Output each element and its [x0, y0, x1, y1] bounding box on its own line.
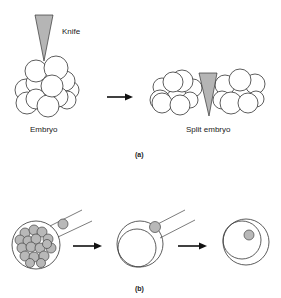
donor-embryo	[12, 221, 60, 269]
reconstructed-embryo	[223, 219, 269, 265]
split-embryo-label: Split embryo	[186, 125, 231, 134]
recipient-oocyte	[117, 210, 195, 267]
embryo-splitting-diagram: Knife Embryo	[0, 0, 281, 298]
arrow-right-icon	[73, 243, 102, 250]
split-embryo-left	[150, 70, 202, 115]
panel-b: (b)	[12, 210, 269, 293]
knife-label: Knife	[62, 27, 81, 36]
panel-b-label: (b)	[135, 285, 144, 293]
knife-split-icon	[199, 73, 217, 116]
panel-a: Knife Embryo	[15, 15, 265, 159]
intact-embryo	[15, 56, 79, 117]
arrow-right-icon	[178, 243, 207, 250]
arrow-right-icon	[107, 94, 133, 101]
knife-icon	[35, 15, 53, 61]
split-embryo-right	[213, 69, 265, 114]
embryo-label: Embryo	[30, 125, 58, 134]
panel-a-label: (a)	[135, 151, 144, 159]
